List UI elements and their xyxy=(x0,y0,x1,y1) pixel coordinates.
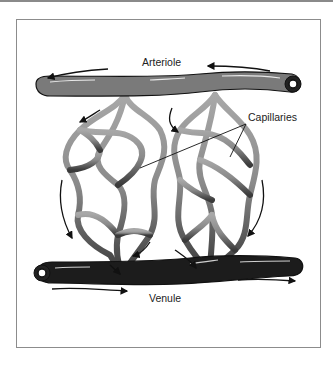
arteriole-vessel xyxy=(36,72,301,96)
venule-label: Venule xyxy=(149,292,181,304)
venule-vessel xyxy=(34,256,303,285)
capillaries-label: Capillaries xyxy=(248,111,297,123)
capillary-network xyxy=(66,95,257,275)
arteriole-label: Arteriole xyxy=(142,56,181,68)
